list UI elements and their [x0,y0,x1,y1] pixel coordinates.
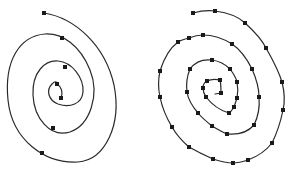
square-marker-icon [176,40,180,44]
square-marker-icon [211,157,215,161]
square-marker-icon [218,78,222,82]
spiral-figure [0,0,290,169]
square-marker-icon [231,161,235,165]
square-marker-icon [235,80,239,84]
square-marker-icon [201,33,205,37]
right-spiral-dense-markers [158,9,285,165]
square-marker-icon [59,96,63,100]
square-marker-icon [204,95,208,99]
square-marker-icon [210,124,214,128]
square-marker-icon [188,67,192,71]
square-marker-icon [257,95,261,99]
square-marker-icon [213,9,217,13]
square-marker-icon [196,111,200,115]
square-marker-icon [232,105,236,109]
square-marker-icon [60,36,64,40]
square-marker-icon [185,90,189,94]
square-marker-icon [42,11,46,15]
square-marker-icon [219,91,223,95]
square-marker-icon [187,145,191,149]
left-spiral-curve [7,13,116,162]
square-marker-icon [158,69,162,73]
square-marker-icon [270,141,274,145]
square-marker-icon [201,86,205,90]
square-marker-icon [158,95,162,99]
square-marker-icon [281,108,285,112]
square-marker-icon [225,132,229,136]
square-marker-icon [227,111,231,115]
right-spiral-markers [158,9,285,165]
square-marker-icon [230,42,234,46]
square-marker-icon [252,123,256,127]
left-spiral-sparse-markers [7,11,116,162]
square-marker-icon [205,79,209,83]
square-marker-icon [264,46,268,50]
square-marker-icon [191,11,195,15]
square-marker-icon [280,80,284,84]
square-marker-icon [63,65,67,69]
square-marker-icon [210,58,214,62]
square-marker-icon [228,67,232,71]
square-marker-icon [187,36,191,40]
square-marker-icon [235,96,239,100]
square-marker-icon [243,21,247,25]
square-marker-icon [246,158,250,162]
square-marker-icon [40,151,44,155]
square-marker-icon [250,67,254,71]
right-spiral-curve [159,11,285,163]
square-marker-icon [55,82,59,86]
square-marker-icon [51,126,55,130]
square-marker-icon [170,125,174,129]
